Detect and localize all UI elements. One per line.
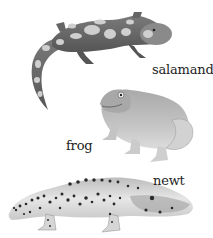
frog-pupil — [120, 94, 122, 96]
salamander-front-leg — [128, 44, 146, 58]
frog-hind-foot — [150, 146, 168, 162]
frog-figure — [100, 90, 193, 162]
salamander-eye — [153, 29, 156, 32]
frog-label: frog — [66, 139, 92, 152]
newt-label: newt — [153, 174, 185, 187]
illustration-canvas — [0, 0, 213, 238]
amphibian-illustration: salamander frog newt — [0, 0, 213, 238]
salamander-label: salamander — [152, 63, 213, 76]
newt-eye — [13, 207, 15, 209]
frog-head — [100, 90, 131, 113]
salamander-back-leg — [76, 50, 94, 64]
salamander-rear-upper-leg — [56, 22, 66, 32]
